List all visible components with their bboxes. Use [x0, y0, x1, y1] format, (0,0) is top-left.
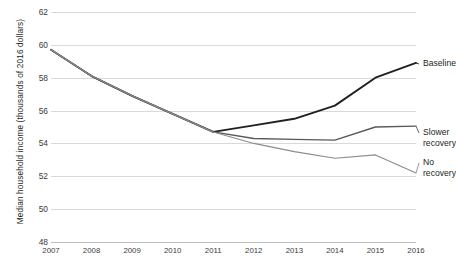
series-lines: [51, 12, 416, 242]
series-line-baseline: [51, 50, 416, 132]
x-tick-label: 2007: [42, 246, 59, 255]
x-tick-label: 2013: [286, 246, 303, 255]
gridline: [51, 242, 416, 243]
series-label-baseline: Baseline: [423, 58, 456, 69]
leader-line: [416, 63, 419, 64]
x-tick-label: 2016: [407, 246, 424, 255]
leader-line: [416, 163, 419, 173]
y-tick-label: 50: [22, 204, 48, 214]
y-tick-label: 62: [22, 7, 48, 17]
x-tick-label: 2014: [326, 246, 343, 255]
x-tick-label: 2009: [123, 246, 140, 255]
series-line-slower-recovery: [51, 50, 416, 140]
series-label-no-recovery: No recovery: [423, 157, 456, 178]
x-tick-label: 2008: [83, 246, 100, 255]
series-label-slower-recovery: Slower recovery: [423, 127, 456, 148]
series-line-no-recovery: [51, 50, 416, 173]
y-tick-label: 60: [22, 40, 48, 50]
y-tick-label: 54: [22, 138, 48, 148]
x-tick-label: 2011: [205, 246, 222, 255]
y-tick-label: 58: [22, 73, 48, 83]
x-tick-label: 2015: [367, 246, 384, 255]
leader-line: [416, 126, 419, 133]
y-tick-label: 52: [22, 171, 48, 181]
y-tick-label: 56: [22, 106, 48, 116]
x-tick-label: 2010: [164, 246, 181, 255]
x-tick-label: 2012: [245, 246, 262, 255]
plot-area: 4850525456586062 20072008200920102011201…: [51, 12, 416, 242]
